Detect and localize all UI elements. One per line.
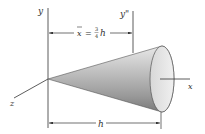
z-axis-label: z bbox=[9, 99, 15, 108]
length-dimension: h bbox=[49, 112, 161, 129]
z-axis-line bbox=[14, 79, 48, 98]
y-axis-label: y bbox=[37, 6, 44, 16]
x-axis-label: x bbox=[188, 82, 193, 91]
centroid-label-h: h bbox=[100, 28, 106, 38]
centroid-frac-denominator: 4 bbox=[95, 33, 98, 39]
length-label-h: h bbox=[98, 119, 104, 129]
centroid-dimension: x = 3 4 h bbox=[49, 26, 132, 39]
y2-axis-label: y" bbox=[119, 9, 129, 19]
centroid-label-x: x bbox=[77, 29, 82, 38]
centroid-frac-numerator: 3 bbox=[95, 26, 98, 32]
cone-centroid-diagram: y y" z x x = 3 4 h h bbox=[0, 0, 205, 134]
centroid-label-equals: = bbox=[85, 29, 92, 38]
